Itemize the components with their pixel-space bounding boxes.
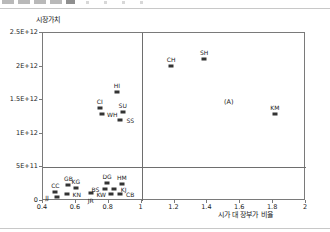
data-point-label: CB <box>126 190 134 197</box>
x-tick-label: 1.6 <box>234 203 244 211</box>
x-tick-label: 0.6 <box>70 203 80 211</box>
x-tick-mark <box>174 200 175 203</box>
data-point-label: (A) <box>224 98 234 106</box>
toolbar-dot-1[interactable] <box>86 1 89 4</box>
data-point-label: SS <box>126 117 134 124</box>
data-point-label: KW <box>96 190 106 197</box>
y-tick-label: 0 <box>0 196 38 204</box>
data-point-marker[interactable] <box>97 106 102 109</box>
x-tick-mark <box>272 200 273 203</box>
data-point-label: CH <box>167 55 176 62</box>
data-point-marker[interactable] <box>169 64 174 67</box>
toolbar-icon-3[interactable] <box>34 0 46 4</box>
x-tick-label: 1.2 <box>168 203 178 211</box>
y-tick-label: 2.5E+12 <box>0 28 38 36</box>
x-axis-title: 시가 대 장부가 비율 <box>218 209 273 219</box>
data-point-label: SH <box>200 49 208 56</box>
data-point-marker[interactable] <box>109 192 114 195</box>
data-point-label: CI <box>97 97 103 104</box>
bottom-divider <box>0 228 330 229</box>
data-point-label: JJ <box>45 194 49 201</box>
data-point-label: JR <box>88 196 94 203</box>
data-point-label: KN <box>73 190 81 197</box>
data-point-label: SU <box>119 101 127 108</box>
data-point-marker[interactable] <box>118 192 123 195</box>
y-tick-label: 1E+12 <box>0 129 38 137</box>
data-point-marker[interactable] <box>202 58 207 61</box>
data-point-marker[interactable] <box>53 190 58 193</box>
y-tick-label: 1.5E+12 <box>0 95 38 103</box>
data-point-marker[interactable] <box>119 183 124 186</box>
data-point-marker[interactable] <box>66 184 71 187</box>
data-point-marker[interactable] <box>111 187 116 190</box>
toolbar-dot-4[interactable] <box>140 1 143 4</box>
data-point-label: KM <box>270 103 279 110</box>
data-point-marker[interactable] <box>118 119 123 122</box>
data-point-marker[interactable] <box>105 182 110 185</box>
data-point-marker[interactable] <box>64 192 69 195</box>
data-point-label: HM <box>117 174 127 181</box>
horizontal-reference-line <box>43 167 306 168</box>
vertical-reference-line <box>142 33 143 201</box>
x-tick-label: 2 <box>303 203 307 211</box>
toolbar-icon-2[interactable] <box>18 0 30 4</box>
toolbar-dot-2[interactable] <box>104 1 107 4</box>
data-point-label: DG <box>102 173 111 180</box>
data-point-marker[interactable] <box>114 91 119 94</box>
toolbar-strip <box>0 0 330 9</box>
x-tick-label: 0.8 <box>103 203 113 211</box>
scatter-chart: 시장가치 시가 대 장부가 비율 05E+111E+121.5E+122E+12… <box>0 9 330 223</box>
data-point-label: HI <box>114 82 120 89</box>
data-point-label: CC <box>51 181 59 188</box>
data-point-marker[interactable] <box>120 110 125 113</box>
toolbar-icon-4[interactable] <box>50 0 62 4</box>
x-tick-mark <box>108 200 109 203</box>
data-point-marker[interactable] <box>272 112 277 115</box>
toolbar-icon-1[interactable] <box>2 0 14 4</box>
x-tick-label: 1.8 <box>267 203 277 211</box>
x-tick-mark <box>305 200 306 203</box>
data-point-marker[interactable] <box>54 196 59 199</box>
data-point-marker[interactable] <box>73 187 78 190</box>
y-tick-label: 5E+11 <box>0 162 38 170</box>
x-tick-label: 1 <box>139 203 143 211</box>
y-axis-title: 시장가치 <box>36 14 60 24</box>
x-tick-mark <box>239 200 240 203</box>
toolbar-dot-3[interactable] <box>122 1 125 4</box>
x-tick-mark <box>75 200 76 203</box>
x-tick-label: 0.4 <box>37 203 47 211</box>
x-tick-mark <box>206 200 207 203</box>
toolbar-icon-5[interactable] <box>66 0 75 4</box>
data-point-marker[interactable] <box>100 112 105 115</box>
x-tick-mark <box>42 200 43 203</box>
data-point-label: KG <box>72 178 81 185</box>
y-tick-label: 2E+12 <box>0 62 38 70</box>
data-point-label: WH <box>107 110 117 117</box>
x-tick-label: 1.4 <box>201 203 211 211</box>
plot-frame: JJCCKNGBKGJRBSDGKJKWCBHMCIWHHISUSSCHSH(A… <box>42 32 305 200</box>
